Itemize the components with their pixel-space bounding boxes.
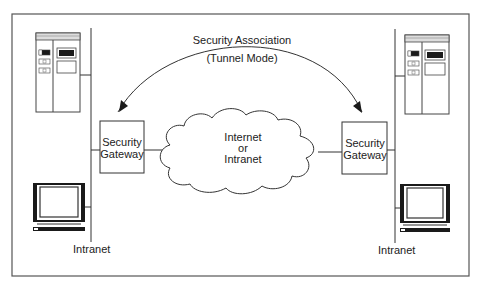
right-gateway-line1: Security: [345, 137, 385, 149]
arrow-right-icon: [353, 101, 362, 113]
cloud-line3: Intranet: [224, 153, 261, 165]
computer-monitor-icon: [400, 184, 450, 232]
left-gateway-line2: Gateway: [100, 148, 144, 160]
left-gateway-line1: Security: [102, 136, 142, 148]
right-security-gateway: Security Gateway: [342, 122, 387, 174]
left-network-label: Intranet: [73, 243, 110, 255]
right-gateway-line2: Gateway: [343, 149, 387, 161]
computer-monitor-icon: [33, 183, 85, 231]
cloud-icon: Internet or Intranet: [160, 109, 313, 194]
left-security-gateway: Security Gateway: [100, 121, 144, 173]
right-network-label: Intranet: [378, 244, 415, 256]
network-diagram: Intranet Security Gateway Internet o: [0, 0, 483, 294]
server-tower-icon: [405, 35, 449, 114]
security-association-label: Security Association: [193, 34, 291, 46]
tunnel-mode-label: (Tunnel Mode): [206, 52, 277, 64]
server-tower-icon: [36, 33, 80, 112]
arrow-left-icon: [119, 100, 128, 112]
security-association-tunnel: Security Association (Tunnel Mode): [118, 34, 362, 113]
